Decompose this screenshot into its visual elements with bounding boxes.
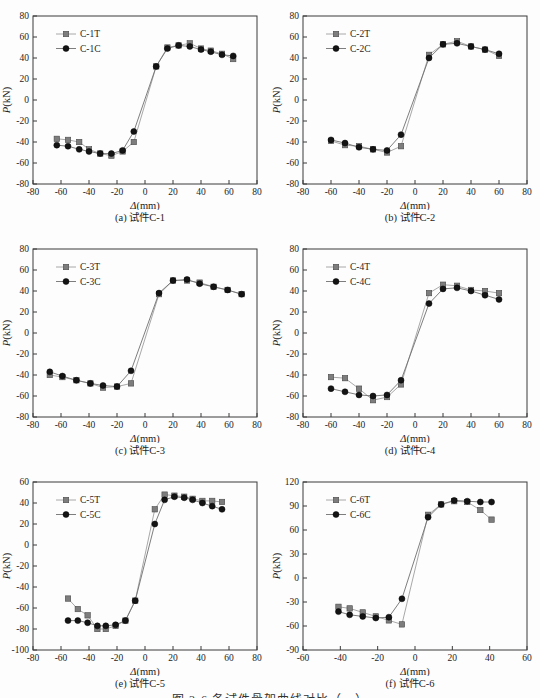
- circle-marker: [199, 500, 205, 506]
- circle-marker: [211, 284, 217, 290]
- y-axis-title: P(kN): [1, 319, 13, 347]
- circle-marker: [384, 392, 390, 398]
- chart-c5-canvas: -80-60-40-20020406080-100-80-60-40-20020…: [0, 466, 270, 676]
- circle-marker: [122, 618, 128, 624]
- x-tick-label: -20: [111, 187, 124, 197]
- y-tick-label: 80: [20, 244, 30, 254]
- legend: C-5TC-5C: [56, 495, 101, 520]
- y-tick-label: -80: [16, 412, 29, 422]
- series-line: [331, 288, 499, 396]
- circle-marker: [342, 140, 348, 146]
- y-tick-label: -20: [16, 116, 29, 126]
- square-marker: [152, 507, 157, 512]
- y-axis-title: P(kN): [271, 319, 283, 347]
- series-C-4C: [328, 285, 502, 399]
- square-marker: [489, 517, 494, 522]
- circle-marker: [496, 51, 502, 57]
- y-tick-label: 40: [20, 53, 30, 63]
- x-tick-label: 20: [168, 187, 178, 197]
- x-tick-label: 60: [224, 653, 234, 663]
- chart-c5: -80-60-40-20020406080-100-80-60-40-20020…: [0, 466, 270, 698]
- y-tick-label: -60: [286, 158, 299, 168]
- y-tick-label: -40: [286, 137, 299, 147]
- chart-c1: -80-60-40-20020406080-80-60-40-200204060…: [0, 0, 270, 233]
- circle-marker: [181, 495, 187, 501]
- y-tick-label: 60: [290, 32, 300, 42]
- y-axis-title: P(kN): [271, 86, 283, 114]
- legend-square-marker: [333, 31, 338, 36]
- circle-marker: [425, 514, 431, 520]
- square-marker: [342, 375, 347, 380]
- legend-label: C-1C: [80, 44, 101, 54]
- y-tick-label: 80: [20, 11, 30, 21]
- circle-marker: [464, 498, 470, 504]
- y-tick-label: 90: [290, 501, 300, 511]
- x-tick-label: 20: [168, 653, 178, 663]
- circle-marker: [335, 609, 341, 615]
- y-tick-label: 80: [290, 244, 300, 254]
- y-tick-label: 40: [20, 286, 30, 296]
- x-tick-label: 60: [494, 187, 504, 197]
- circle-marker: [73, 377, 79, 383]
- circle-marker: [477, 499, 483, 505]
- y-axis: -80-60-40-20020406080: [16, 11, 37, 189]
- legend: C-2TC-2C: [326, 29, 371, 54]
- x-tick-label: 20: [438, 187, 448, 197]
- x-tick-label: 80: [252, 420, 262, 430]
- square-marker: [496, 290, 501, 295]
- square-marker: [54, 136, 59, 141]
- legend-label: C-5C: [80, 510, 101, 520]
- y-tick-label: 30: [290, 549, 300, 559]
- chart-c4-canvas: -80-60-40-20020406080-80-60-40-200204060…: [270, 233, 540, 443]
- y-tick-label: 0: [294, 573, 299, 583]
- x-tick-label: 80: [522, 187, 532, 197]
- y-tick-label: 60: [20, 265, 30, 275]
- circle-marker: [65, 618, 71, 624]
- y-axis: -80-60-40-20020406080: [286, 244, 307, 422]
- x-tick-label: 0: [143, 187, 148, 197]
- legend-label: C-6C: [350, 510, 371, 520]
- square-marker: [210, 498, 215, 503]
- series-line: [50, 281, 242, 388]
- legend-label: C-3C: [80, 277, 101, 287]
- x-tick-label: -20: [371, 653, 384, 663]
- circle-marker: [219, 52, 225, 58]
- legend-square-marker: [63, 264, 68, 269]
- x-tick-label: 60: [522, 653, 532, 663]
- square-marker: [85, 613, 90, 618]
- plot-frame: [303, 249, 527, 417]
- y-tick-label: -20: [16, 561, 29, 571]
- figure-bottom-caption-text: 图 3-6 各试件骨架曲线对比（一）: [172, 693, 368, 698]
- x-tick-label: 40: [196, 420, 206, 430]
- legend: C-3TC-3C: [56, 262, 101, 287]
- x-tick-label: 40: [196, 187, 206, 197]
- x-tick-label: 0: [413, 420, 418, 430]
- square-marker: [77, 139, 82, 144]
- x-tick-label: 60: [224, 187, 234, 197]
- legend-square-marker: [63, 497, 68, 502]
- legend: C-1TC-1C: [56, 29, 101, 54]
- plot-frame: [303, 482, 527, 650]
- square-marker: [131, 139, 136, 144]
- circle-marker: [162, 497, 168, 503]
- y-tick-label: 60: [290, 265, 300, 275]
- figure-page: -80-60-40-20020406080-80-60-40-200204060…: [0, 0, 540, 698]
- figure-bottom-caption: 图 3-6 各试件骨架曲线对比（一）: [0, 690, 540, 698]
- circle-marker: [454, 40, 460, 46]
- chart-c3: -80-60-40-20020406080-80-60-40-200204060…: [0, 233, 270, 466]
- y-tick-label: -60: [16, 158, 29, 168]
- legend: C-4TC-4C: [326, 262, 371, 287]
- y-tick-label: 20: [290, 307, 300, 317]
- chart-c1-caption: (a) 试件C-1: [20, 209, 260, 224]
- legend-label: C-4C: [350, 277, 371, 287]
- y-tick-label: 20: [20, 519, 30, 529]
- y-tick-label: -40: [16, 370, 29, 380]
- circle-marker: [468, 288, 474, 294]
- x-tick-label: -20: [381, 420, 394, 430]
- x-tick-label: 80: [522, 420, 532, 430]
- circle-marker: [54, 142, 60, 148]
- circle-marker: [482, 47, 488, 53]
- y-tick-label: -20: [286, 349, 299, 359]
- circle-marker: [426, 301, 432, 307]
- circle-marker: [209, 503, 215, 509]
